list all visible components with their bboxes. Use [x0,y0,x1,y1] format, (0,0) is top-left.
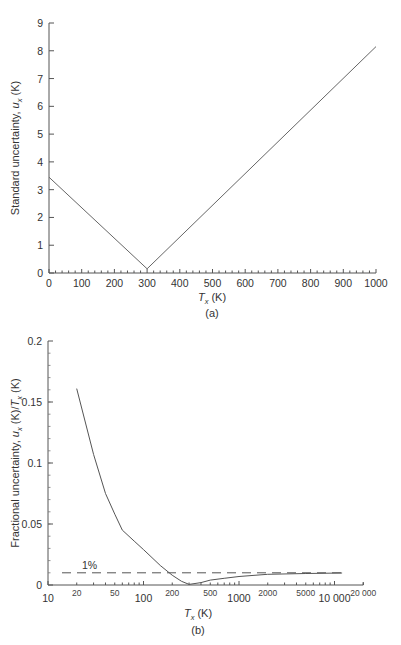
svg-text:0.15: 0.15 [22,396,43,408]
svg-text:500: 500 [204,277,222,289]
svg-text:20: 20 [72,588,82,598]
svg-text:2000: 2000 [258,588,277,598]
chart-a-y-ticks: 0123456789 [37,17,54,279]
svg-text:50: 50 [110,588,120,598]
chart-a-caption: (a) [205,307,218,319]
svg-text:500: 500 [203,588,217,598]
chart-b-one-percent-label: 1% [82,559,97,571]
svg-text:200: 200 [165,588,179,598]
chart-b-x-axis-title: Tx (K) [184,607,212,622]
chart-a-x-axis-title: Tx (K) [198,291,226,306]
svg-text:5: 5 [37,128,43,140]
svg-text:1000: 1000 [364,277,388,289]
svg-text:20 000: 20 000 [350,588,376,598]
svg-text:800: 800 [302,277,320,289]
svg-text:0.2: 0.2 [27,335,42,347]
svg-text:8: 8 [37,45,43,57]
svg-text:700: 700 [269,277,287,289]
svg-text:10: 10 [42,592,54,604]
svg-text:0: 0 [37,267,43,279]
svg-text:10 000: 10 000 [318,592,350,604]
svg-text:0: 0 [46,277,52,289]
chart-b-fractional-uncertainty: 00.050.10.150.2 10100100010 000205020050… [9,335,377,636]
svg-text:1000: 1000 [227,592,251,604]
svg-text:6: 6 [37,100,43,112]
chart-a-x-ticks: 01002003004005006007008009001000 [46,269,388,289]
svg-text:100: 100 [135,592,153,604]
chart-a-uncertainty-line [49,47,376,269]
figure: 0123456789 01002003004005006007008009001… [0,0,401,645]
svg-text:0.05: 0.05 [22,518,43,530]
chart-b-axes [48,341,363,585]
svg-text:0.1: 0.1 [27,457,42,469]
chart-b-x-ticks: 10100100010 00020502005002000500020 000 [42,581,376,604]
chart-b-caption: (b) [191,624,204,636]
svg-text:7: 7 [37,73,43,85]
svg-text:1: 1 [37,239,43,251]
svg-text:300: 300 [138,277,156,289]
chart-b-fractional-uncertainty-line [77,389,342,585]
chart-a-standard-uncertainty: 0123456789 01002003004005006007008009001… [9,17,388,319]
svg-text:0: 0 [36,579,42,591]
svg-text:100: 100 [73,277,91,289]
svg-text:600: 600 [236,277,254,289]
svg-text:2: 2 [37,211,43,223]
svg-text:9: 9 [37,17,43,29]
svg-text:3: 3 [37,184,43,196]
chart-a-y-axis-title: Standard uncertainty, ux (K) [9,81,24,215]
svg-text:900: 900 [335,277,353,289]
svg-text:4: 4 [37,156,43,168]
svg-text:200: 200 [106,277,124,289]
chart-a-axes [49,23,376,273]
svg-text:5000: 5000 [296,588,315,598]
svg-text:400: 400 [171,277,189,289]
